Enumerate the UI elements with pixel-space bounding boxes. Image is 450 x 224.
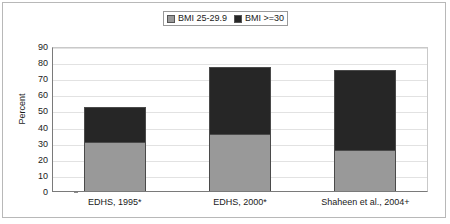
bar-slot-1: [53, 48, 178, 191]
y-axis-tick-80: 80: [26, 59, 48, 68]
plot-wrapper: Percent 0102030405060708090 EDHS, 1995*E…: [0, 0, 450, 224]
x-axis-tick-labels: EDHS, 1995*EDHS, 2000*Shaheen et al., 20…: [52, 197, 428, 207]
bar-segment-bmi-25-29-9-1[interactable]: [85, 143, 145, 191]
y-axis-tick-10: 10: [26, 171, 48, 180]
stacked-bar-3[interactable]: [334, 70, 396, 191]
x-axis-label-2: EDHS, 2000*: [177, 197, 302, 207]
y-axis-tick-labels: 0102030405060708090: [26, 47, 48, 192]
bar-segment-bmi-30-plus-3[interactable]: [335, 71, 395, 151]
bar-slot-2: [178, 48, 303, 191]
plot-area: [52, 47, 428, 192]
y-axis-tick-40: 40: [26, 123, 48, 132]
bar-segment-bmi-25-29-9-2[interactable]: [210, 135, 270, 191]
stacked-bar-1[interactable]: [84, 107, 146, 191]
bar-segment-bmi-30-plus-1[interactable]: [85, 108, 145, 143]
x-axis-label-3: Shaheen et al., 2004+: [303, 197, 428, 207]
x-axis-label-1: EDHS, 1995*: [52, 197, 177, 207]
stacked-bar-2[interactable]: [209, 67, 271, 191]
y-axis-tick-30: 30: [26, 139, 48, 148]
bar-slot-3: [302, 48, 427, 191]
bar-segment-bmi-30-plus-2[interactable]: [210, 68, 270, 135]
bars-layer: [53, 48, 427, 191]
y-axis-tick-60: 60: [26, 91, 48, 100]
stacked-bar-chart-figure: BMI 25-29.9 BMI >=30 Percent 01020304050…: [0, 0, 450, 224]
y-axis-tickmark-0: [74, 192, 78, 193]
y-axis-tick-70: 70: [26, 75, 48, 84]
y-axis-tick-50: 50: [26, 107, 48, 116]
y-axis-tick-90: 90: [26, 43, 48, 52]
bar-segment-bmi-25-29-9-3[interactable]: [335, 151, 395, 191]
y-axis-tick-0: 0: [26, 188, 48, 197]
y-axis-tick-20: 20: [26, 155, 48, 164]
